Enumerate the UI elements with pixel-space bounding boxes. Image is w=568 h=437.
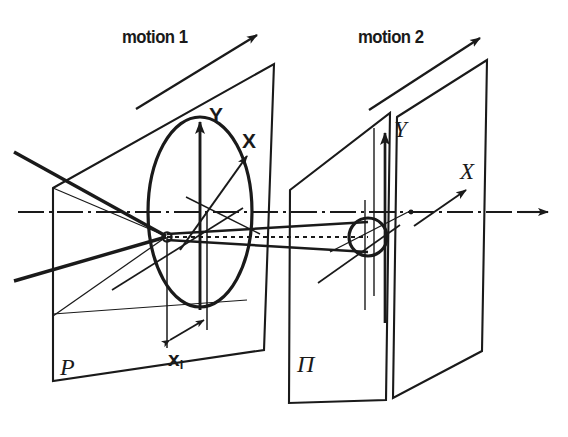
image-axis-x-label: X: [460, 160, 474, 183]
plane-P: [53, 64, 274, 381]
object-rays-incoming: [14, 152, 166, 281]
diagram-canvas: motion 1 motion 2 Y X Y X P Π xi: [0, 0, 568, 437]
lens-axis-y-label: Y: [209, 104, 223, 125]
lens-axis-X-arrow: [180, 156, 247, 250]
diagram-vector-layer: [0, 0, 568, 437]
construction-rays-plane-P: [53, 188, 247, 316]
plane-pi-label: Π: [297, 352, 314, 376]
dimension-xi-base: x: [168, 347, 180, 370]
dimension-xi-label: xi: [168, 348, 183, 371]
image-axis-y-label: Y: [394, 118, 407, 141]
image-axis-X-arrow: [409, 190, 466, 226]
plane-p-label: P: [60, 355, 75, 379]
lens-axis-x-label: X: [242, 130, 256, 151]
motion-1-label: motion 1: [122, 27, 187, 46]
dimension-xi-subscript: i: [180, 357, 184, 372]
plane-image: [393, 60, 487, 398]
motion-2-label: motion 2: [358, 27, 423, 46]
